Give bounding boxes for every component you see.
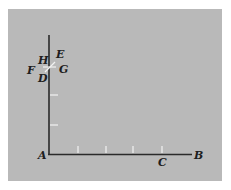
- label-G: G: [59, 63, 68, 76]
- horizontal-ticks: [78, 146, 162, 153]
- diagram: A B C D E F G H: [0, 0, 231, 190]
- label-C: C: [158, 156, 167, 169]
- vertical-ticks: [50, 95, 58, 125]
- label-D: D: [37, 72, 48, 85]
- label-A: A: [37, 149, 47, 162]
- label-H: H: [37, 54, 49, 67]
- label-B: B: [193, 149, 203, 162]
- label-E: E: [55, 48, 65, 61]
- label-F: F: [26, 64, 36, 77]
